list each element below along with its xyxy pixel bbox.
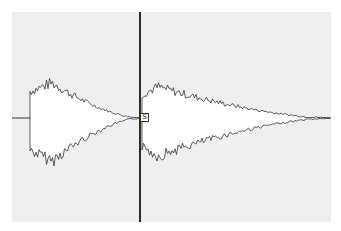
segment-2	[142, 83, 330, 161]
segment-1	[30, 78, 140, 165]
marker-s[interactable]: S	[140, 113, 149, 122]
waveform[interactable]	[0, 0, 341, 231]
